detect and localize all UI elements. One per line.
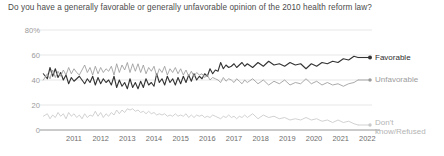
- endpoint-markers: [368, 56, 372, 127]
- y-axis-tick-label: 80%: [12, 26, 40, 35]
- x-axis-tick-label: 2013: [119, 134, 135, 143]
- x-axis-tick-label: 2018: [252, 134, 268, 143]
- series-line: [43, 56, 358, 89]
- x-axis-tick-label: 2015: [172, 134, 188, 143]
- legend-label-unfavorable[interactable]: Unfavorable: [375, 75, 418, 84]
- x-axis-tick-label: 2022: [359, 134, 375, 143]
- series-lines: [43, 56, 370, 125]
- y-axis-tick-label: 40: [12, 76, 40, 85]
- x-axis-tick-label: 2017: [226, 134, 242, 143]
- series-line: [43, 63, 358, 87]
- legend-label-dontknow[interactable]: Don't know/Refused: [375, 119, 426, 136]
- y-axis-tick-label: 60: [12, 51, 40, 60]
- y-axis-tick-label: 0: [12, 126, 40, 135]
- x-axis-tick-label: 2016: [199, 134, 215, 143]
- x-axis-tick-label: 2011: [66, 134, 82, 143]
- series-endpoint-marker: [368, 123, 371, 126]
- x-axis-tick-label: 2021: [332, 134, 348, 143]
- series-line: [43, 109, 358, 125]
- y-axis-tick-label: 20: [12, 101, 40, 110]
- legend-label-favorable[interactable]: Favorable: [375, 53, 411, 62]
- x-axis-tick-label: 2012: [92, 134, 108, 143]
- x-axis-tick-label: 2014: [146, 134, 162, 143]
- x-axis-tick-label: 2020: [306, 134, 322, 143]
- legend-dontknow-line2: know/Refused: [375, 127, 426, 136]
- series-endpoint-marker: [368, 78, 371, 81]
- chart-container: Do you have a generally favorable or gen…: [0, 0, 444, 156]
- series-endpoint-marker: [368, 56, 372, 60]
- x-axis-tick-label: 2019: [279, 134, 295, 143]
